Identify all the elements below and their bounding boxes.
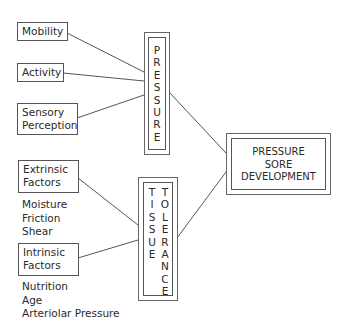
nutrition-text: Nutrition (22, 280, 120, 294)
perception-label: Perception (22, 119, 73, 132)
line-sensory-pressure (77, 95, 144, 118)
intrinsic-factors-box: Intrinsic Factors (18, 243, 79, 276)
letter: U (146, 236, 158, 248)
letter: S (151, 81, 163, 93)
line-intrinsic-tissue (78, 240, 138, 258)
pressure-sore-development-box: PRESSURE SORE DEVELOPMENT (226, 133, 331, 195)
factors-label: Factors (23, 176, 74, 189)
tissue-vertical-label: TISSUE (146, 186, 158, 260)
line-activity-pressure (63, 73, 144, 81)
intrinsic-examples: Nutrition Age Arteriolar Pressure (22, 280, 120, 321)
outcome-line-pressure: PRESSURE (232, 146, 325, 159)
pressure-inner-box: PRESSURE (148, 37, 166, 150)
extrinsic-factors-box: Extrinsic Factors (18, 160, 79, 193)
letter: N (159, 260, 171, 272)
extrinsic-examples: Moisture Friction Shear (22, 198, 67, 239)
letter: R (151, 56, 163, 68)
pressure-vertical-label: PRESSURE (151, 44, 163, 143)
letter: O (159, 198, 171, 210)
pressure-box: PRESSURE (144, 32, 170, 155)
mobility-box: Mobility (17, 22, 68, 41)
outcome-line-sore: SORE (232, 159, 325, 172)
tolerance-vertical-label: TOLERANCE (159, 186, 171, 298)
moisture-text: Moisture (22, 198, 67, 212)
letter: I (146, 198, 158, 210)
letter: S (151, 94, 163, 106)
letter: C (159, 273, 171, 285)
intrinsic-label: Intrinsic (23, 246, 74, 259)
extrinsic-label: Extrinsic (23, 163, 74, 176)
pressure-sore-development-inner-box: PRESSURE SORE DEVELOPMENT (231, 138, 326, 190)
letter: T (159, 186, 171, 198)
letter: R (151, 118, 163, 130)
activity-label: Activity (22, 66, 61, 78)
mobility-label: Mobility (22, 25, 63, 37)
letter: A (159, 248, 171, 260)
letter: S (146, 211, 158, 223)
line-extrinsic-tissue (78, 178, 138, 225)
shear-text: Shear (22, 225, 67, 239)
letter: T (146, 186, 158, 198)
letter: R (159, 236, 171, 248)
line-mobility-pressure (67, 33, 144, 72)
activity-box: Activity (17, 63, 64, 82)
sensory-label: Sensory (22, 106, 73, 119)
tissue-tolerance-box: TISSUE TOLERANCE (138, 177, 178, 301)
letter: P (151, 44, 163, 56)
letter: E (159, 223, 171, 235)
friction-text: Friction (22, 212, 67, 226)
letter: E (159, 285, 171, 297)
arteriolar-pressure-text: Arteriolar Pressure (22, 307, 120, 321)
outcome-line-development: DEVELOPMENT (232, 171, 325, 184)
letter: U (151, 106, 163, 118)
letter: S (146, 223, 158, 235)
sensory-perception-box: Sensory Perception (17, 103, 78, 135)
letter: E (151, 69, 163, 81)
letter: L (159, 211, 171, 223)
letter: E (151, 131, 163, 143)
letter: E (146, 248, 158, 260)
line-pressure-outcome (169, 92, 226, 153)
line-tissue-outcome (177, 172, 226, 238)
tissue-tolerance-inner-box: TISSUE TOLERANCE (143, 182, 173, 296)
outcome-label: PRESSURE SORE DEVELOPMENT (232, 146, 325, 184)
age-text: Age (22, 294, 120, 308)
factors-label: Factors (23, 259, 74, 272)
